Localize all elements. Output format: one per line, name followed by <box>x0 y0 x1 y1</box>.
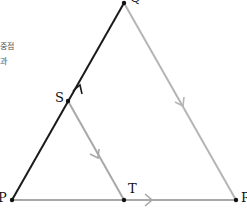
point-T <box>122 198 126 202</box>
label-R: R <box>241 190 247 205</box>
label-S: S <box>55 90 64 105</box>
label-P: P <box>0 190 7 205</box>
segment-QR <box>124 3 236 200</box>
label-T: T <box>128 181 137 196</box>
triangle-diagram <box>0 0 247 218</box>
point-Q <box>122 1 126 5</box>
arrow-icon-PQ <box>73 85 82 94</box>
label-Q: Q <box>130 0 141 5</box>
point-S <box>66 99 70 103</box>
point-P <box>10 198 14 202</box>
segment-ST <box>68 101 124 200</box>
point-R <box>234 198 238 202</box>
